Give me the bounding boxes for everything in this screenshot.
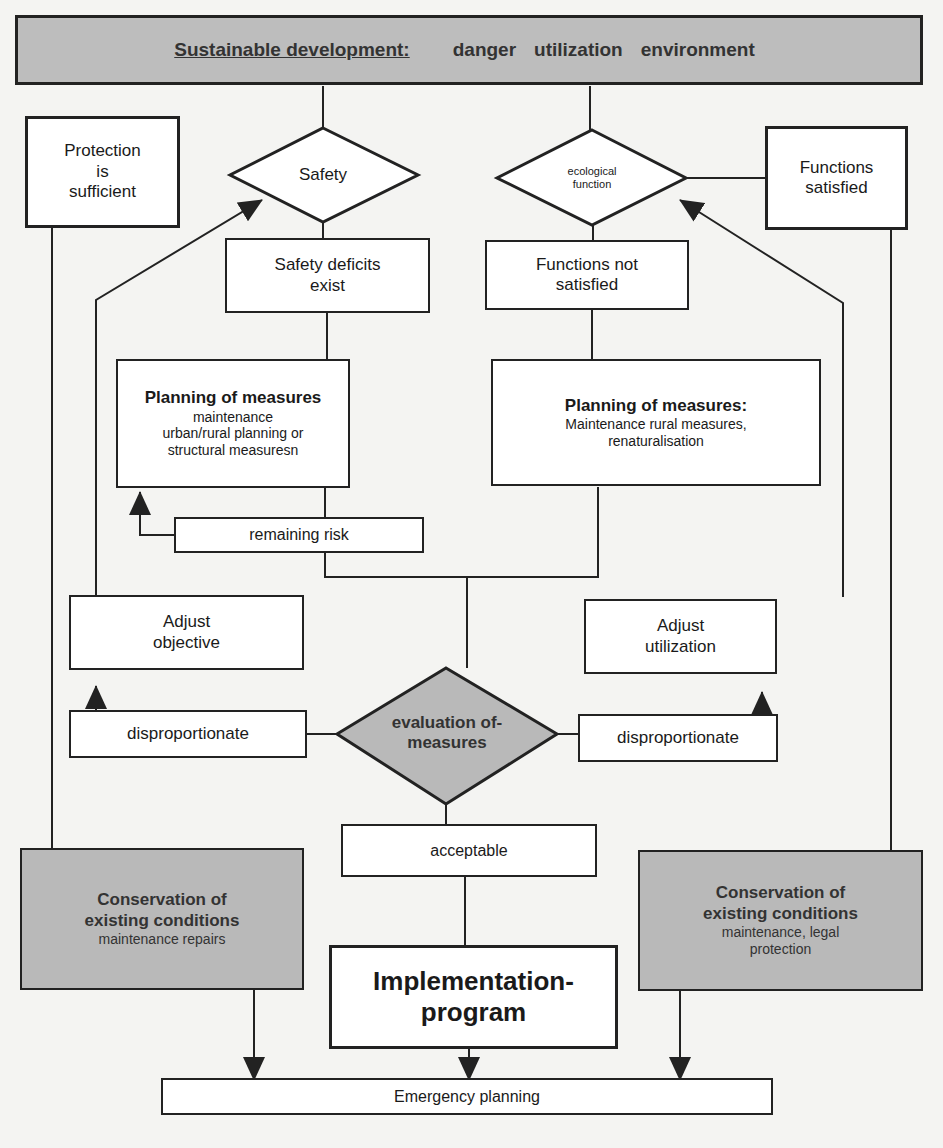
protection-line-2: is xyxy=(96,162,108,182)
header-term-environment: environment xyxy=(641,39,755,62)
emergency-planning-box: Emergency planning xyxy=(161,1078,773,1115)
header-term-utilization: utilization xyxy=(534,39,623,62)
conservation-right-subtitle-2: protection xyxy=(750,941,811,958)
header-title: Sustainable development: xyxy=(174,39,409,62)
ecological-line-2: function xyxy=(573,178,612,191)
protection-sufficient-box: Protection is sufficient xyxy=(25,116,180,228)
planning-right-line-2: renaturalisation xyxy=(608,433,704,450)
conservation-right-title-2: existing conditions xyxy=(703,904,858,924)
protection-line-1: Protection xyxy=(64,141,141,161)
acceptable-box: acceptable xyxy=(341,824,597,877)
adjust-utilization-box: Adjust utilization xyxy=(584,599,777,674)
evaluation-line-1: evaluation of- xyxy=(392,713,503,733)
sustainable-development-header: Sustainable development: danger utilizat… xyxy=(15,15,923,85)
implementation-line-2: program xyxy=(421,997,526,1028)
planning-left-title: Planning of measures xyxy=(145,388,322,408)
protection-line-3: sufficient xyxy=(69,182,136,202)
implementation-program-box: Implementation- program xyxy=(329,945,618,1049)
disproportionate-left-text: disproportionate xyxy=(127,724,249,744)
functions-not-satisfied-box: Functions not satisfied xyxy=(485,240,689,310)
disproportionate-left-box: disproportionate xyxy=(69,710,307,758)
planning-left-line-3: structural measuresn xyxy=(168,442,299,459)
ecological-line-1: ecological xyxy=(568,165,617,178)
adjust-utilization-line-2: utilization xyxy=(645,637,716,657)
functions-satisfied-line-2: satisfied xyxy=(805,178,867,198)
remaining-risk-text: remaining risk xyxy=(249,525,349,544)
ecological-function-label: ecological function xyxy=(540,160,644,196)
planning-measures-right-box: Planning of measures: Maintenance rural … xyxy=(491,359,821,486)
conservation-right-subtitle-1: maintenance, legal xyxy=(722,924,840,941)
functions-not-satisfied-line-1: Functions not xyxy=(536,255,638,275)
acceptable-text: acceptable xyxy=(430,841,507,860)
header-term-danger: danger xyxy=(453,39,516,62)
planning-left-line-1: maintenance xyxy=(193,409,273,426)
conservation-left-title-2: existing conditions xyxy=(85,911,240,931)
functions-not-satisfied-line-2: satisfied xyxy=(556,275,618,295)
adjust-objective-line-1: Adjust xyxy=(163,612,210,632)
conservation-left-subtitle: maintenance repairs xyxy=(99,931,226,948)
remaining-risk-box: remaining risk xyxy=(174,517,424,553)
conservation-right-box: Conservation of existing conditions main… xyxy=(638,850,923,991)
disproportionate-right-box: disproportionate xyxy=(578,714,778,762)
evaluation-line-2: measures xyxy=(407,733,486,753)
adjust-utilization-line-1: Adjust xyxy=(657,616,704,636)
implementation-line-1: Implementation- xyxy=(373,966,574,997)
functions-satisfied-line-1: Functions xyxy=(800,158,874,178)
evaluation-label: evaluation of- measures xyxy=(372,708,522,758)
conservation-left-box: Conservation of existing conditions main… xyxy=(20,848,304,990)
planning-measures-left-box: Planning of measures maintenance urban/r… xyxy=(116,359,350,488)
safety-text: Safety xyxy=(299,165,347,185)
disproportionate-right-text: disproportionate xyxy=(617,728,739,748)
conservation-right-title-1: Conservation of xyxy=(716,883,845,903)
functions-satisfied-box: Functions satisfied xyxy=(765,126,908,230)
safety-label: Safety xyxy=(270,160,376,190)
planning-right-title: Planning of measures: xyxy=(565,396,747,416)
planning-left-line-2: urban/rural planning or xyxy=(163,425,304,442)
adjust-objective-line-2: objective xyxy=(153,633,220,653)
planning-right-line-1: Maintenance rural measures, xyxy=(565,416,746,433)
adjust-objective-box: Adjust objective xyxy=(69,595,304,670)
emergency-planning-text: Emergency planning xyxy=(394,1087,540,1106)
conservation-left-title-1: Conservation of xyxy=(97,890,226,910)
safety-deficits-line-1: Safety deficits xyxy=(275,255,381,275)
safety-deficits-box: Safety deficits exist xyxy=(225,238,430,313)
safety-deficits-line-2: exist xyxy=(310,276,345,296)
